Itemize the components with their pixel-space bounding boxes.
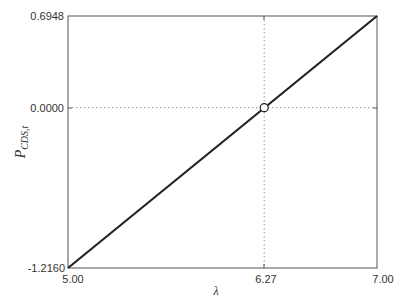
data-series-line <box>68 16 377 268</box>
y-tick-label-zero: 0.0000 <box>30 102 64 114</box>
intersection-marker <box>260 104 268 112</box>
x-tick-label-right: 7.00 <box>372 273 393 285</box>
chart: 0.6948 0.0000 -1.2160 5.00 6.27 7.00 λ P… <box>0 0 401 306</box>
y-tick-label-top: 0.6948 <box>30 10 64 22</box>
y-axis-label-subscript: CDS,t <box>19 125 30 149</box>
y-axis-label: PCDS,t <box>13 125 30 159</box>
x-axis-label: λ <box>212 284 218 298</box>
x-tick-label-mid: 6.27 <box>255 273 276 285</box>
y-axis-label-main: P <box>13 149 28 159</box>
y-tick-label-bottom: -1.2160 <box>28 262 65 274</box>
x-tick-label-left: 5.00 <box>62 273 83 285</box>
svg-text:PCDS,t: PCDS,t <box>13 125 30 159</box>
